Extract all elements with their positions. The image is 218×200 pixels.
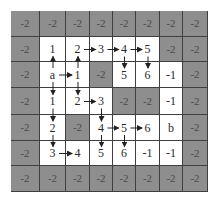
blocked-cell: -2 <box>183 11 208 37</box>
grid-cell: 3 <box>90 88 113 115</box>
grid-cell: 1 <box>40 37 66 62</box>
grid-cell: 6 <box>113 141 136 166</box>
grid-cell: -1 <box>136 141 160 166</box>
blocked-cell: -2 <box>66 11 90 37</box>
grid-cell: 6 <box>136 62 160 88</box>
blocked-cell: -2 <box>113 166 136 192</box>
grid-cell: 1 <box>66 62 90 88</box>
grid-cell: a <box>40 62 66 88</box>
grid-cell: -1 <box>160 141 183 166</box>
grid-cell: 4 <box>90 115 113 141</box>
grid-cell: 2 <box>40 115 66 141</box>
grid-cell: b <box>160 115 183 141</box>
blocked-cell: -2 <box>160 37 183 62</box>
blocked-cell: -2 <box>136 11 160 37</box>
blocked-cell: -2 <box>160 166 183 192</box>
grid-cell: 4 <box>66 141 90 166</box>
blocked-cell: -2 <box>160 11 183 37</box>
blocked-cell: -2 <box>183 166 208 192</box>
blocked-cell: -2 <box>66 115 90 141</box>
grid-cell: 5 <box>113 115 136 141</box>
grid-cell: 5 <box>90 141 113 166</box>
grid-cell: 5 <box>113 62 136 88</box>
blocked-cell: -2 <box>40 11 66 37</box>
grid-cell: 1 <box>40 88 66 115</box>
blocked-cell: -2 <box>183 141 208 166</box>
grid-cell: 4 <box>113 37 136 62</box>
blocked-cell: -2 <box>40 166 66 192</box>
grid-cell: -1 <box>160 88 183 115</box>
grid-cell: 2 <box>66 37 90 62</box>
blocked-cell: -2 <box>136 88 160 115</box>
grid-cell: 6 <box>136 115 160 141</box>
blocked-cell: -2 <box>11 115 40 141</box>
blocked-cell: -2 <box>11 37 40 62</box>
grid-cell: 5 <box>136 37 160 62</box>
blocked-cell: -2 <box>183 62 208 88</box>
blocked-cell: -2 <box>11 88 40 115</box>
grid-cell: 3 <box>90 37 113 62</box>
grid-cell: 3 <box>40 141 66 166</box>
blocked-cell: -2 <box>11 62 40 88</box>
blocked-cell: -2 <box>11 11 40 37</box>
blocked-cell: -2 <box>113 11 136 37</box>
blocked-cell: -2 <box>183 88 208 115</box>
blocked-cell: -2 <box>183 37 208 62</box>
blocked-cell: -2 <box>183 115 208 141</box>
blocked-cell: -2 <box>113 88 136 115</box>
maze-grid: -2-2-2-2-2-2-2-2-212345-2-2-2a1-256-1-2-… <box>11 11 208 192</box>
blocked-cell: -2 <box>11 166 40 192</box>
blocked-cell: -2 <box>90 166 113 192</box>
blocked-cell: -2 <box>90 11 113 37</box>
grid-cell: 2 <box>66 88 90 115</box>
blocked-cell: -2 <box>90 62 113 88</box>
blocked-cell: -2 <box>11 141 40 166</box>
blocked-cell: -2 <box>66 166 90 192</box>
blocked-cell: -2 <box>136 166 160 192</box>
grid-cell: -1 <box>160 62 183 88</box>
